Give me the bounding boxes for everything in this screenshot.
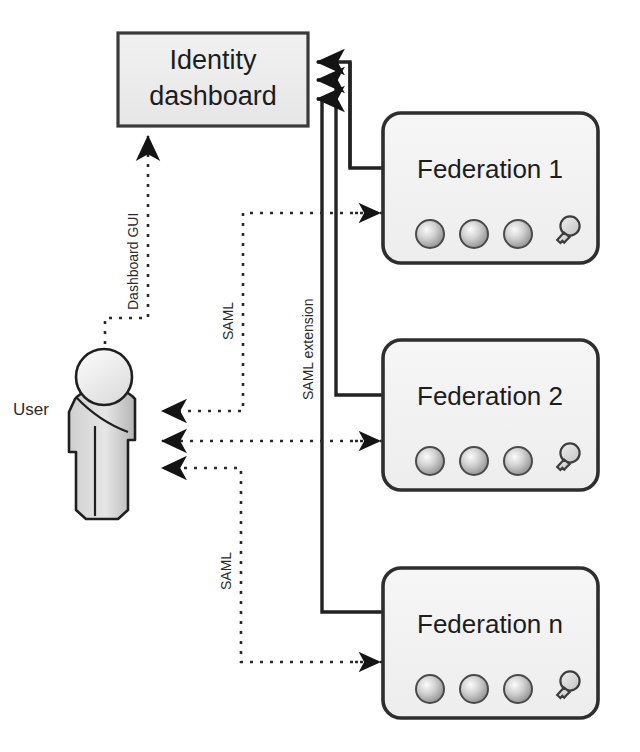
federation-2-label: Federation 2 (417, 381, 563, 411)
diagram-canvas: Identity dashboard Federation 1 Federati… (0, 0, 640, 752)
sphere-icon (460, 447, 488, 475)
user-label: User (13, 400, 49, 419)
saml-upper-edge-label: SAML (220, 302, 236, 340)
federation-n-to-user-line (162, 468, 383, 662)
federation-n-to-dashboard-line (317, 99, 383, 612)
sphere-icon (504, 447, 532, 475)
sphere-icon (460, 675, 488, 703)
user-head-shape (76, 349, 132, 405)
user-actor-node[interactable]: User (13, 349, 135, 519)
dashboard-gui-edge-label: Dashboard GUI (125, 213, 141, 310)
solid-connection-group (317, 62, 383, 612)
sphere-icon (504, 675, 532, 703)
federation-2-node[interactable]: Federation 2 (383, 340, 598, 490)
identity-dashboard-node[interactable]: Identity dashboard (118, 33, 308, 126)
sphere-icon (416, 220, 444, 248)
federation-1-label: Federation 1 (417, 154, 563, 184)
saml-lower-edge-label: SAML (218, 552, 234, 590)
federation-1-to-user-line (162, 213, 383, 411)
identity-dashboard-label-line1: Identity (169, 45, 257, 75)
sphere-icon (504, 220, 532, 248)
sphere-icon (416, 447, 444, 475)
saml-extension-edge-label: SAML extension (300, 299, 316, 400)
federation-n-label: Federation n (417, 609, 563, 639)
sphere-icon (416, 675, 444, 703)
edge-label-group: Dashboard GUI SAML SAML extension SAML (125, 213, 316, 590)
sphere-icon (460, 220, 488, 248)
dotted-connection-group (105, 136, 383, 662)
architecture-diagram: Identity dashboard Federation 1 Federati… (0, 0, 640, 752)
federation-1-node[interactable]: Federation 1 (383, 113, 598, 263)
identity-dashboard-label-line2: dashboard (149, 81, 277, 111)
federation-n-node[interactable]: Federation n (383, 568, 598, 718)
